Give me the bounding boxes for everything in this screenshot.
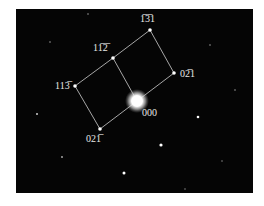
spot-label-0-21: 021̅ <box>86 134 101 144</box>
figure-caption <box>90 196 190 204</box>
diffraction-pattern <box>0 0 264 206</box>
spot-label-000: 000 <box>142 108 157 118</box>
indexed-spots <box>73 28 176 131</box>
spot-label-021: 02̅1 <box>180 69 195 79</box>
spot-label-131: 1̅3̅1 <box>140 14 155 24</box>
lattice-lines <box>75 30 174 129</box>
spot-label-112: 11̅2̅ <box>93 43 108 53</box>
spot-label-113: 113̅ <box>55 81 70 91</box>
